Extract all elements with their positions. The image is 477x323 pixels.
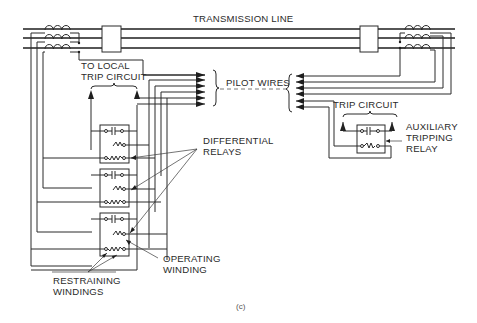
transmission-line-conductors xyxy=(23,29,455,48)
pilot-wire-protection-diagram: TRANSMISSION LINE xyxy=(0,0,477,323)
differential-relay-3 xyxy=(31,213,167,256)
transmission-line-label: TRANSMISSION LINE xyxy=(193,13,293,24)
to-local-trip-circuit-line2: TRIP CIRCUIT xyxy=(81,71,147,82)
local-trip-arrow-left xyxy=(88,90,94,99)
differential-relays-label-line2: RELAYS xyxy=(203,146,241,157)
auxiliary-label-line2: TRIPPING xyxy=(406,132,453,143)
operating-winding-label-line2: WINDING xyxy=(163,264,207,275)
trip-circuit-label: TRIP CIRCUIT xyxy=(333,99,399,110)
auxiliary-label-line3: RELAY xyxy=(406,143,438,154)
right-circuit-breaker xyxy=(360,26,378,52)
local-trip-brace xyxy=(91,83,137,89)
restraining-windings-label-line2: WINDINGS xyxy=(53,286,104,297)
differential-relays-leaders xyxy=(130,149,197,233)
restraining-windings-label-line1: RESTRAINING xyxy=(53,275,121,286)
left-circuit-breaker xyxy=(102,26,121,52)
pilot-wires-label: PILOT WIRES xyxy=(226,77,290,88)
to-local-trip-circuit-line1: TO LOCAL xyxy=(81,60,130,71)
auxiliary-label-line1: AUXILIARY xyxy=(406,121,458,132)
figure-caption: (c) xyxy=(236,302,246,311)
differential-relays-label-line1: DIFFERENTIAL xyxy=(203,135,274,146)
trip-circuit-brace xyxy=(343,111,397,117)
local-trip-arrow-right xyxy=(134,90,140,99)
operating-winding-label-line1: OPERATING xyxy=(163,253,221,264)
